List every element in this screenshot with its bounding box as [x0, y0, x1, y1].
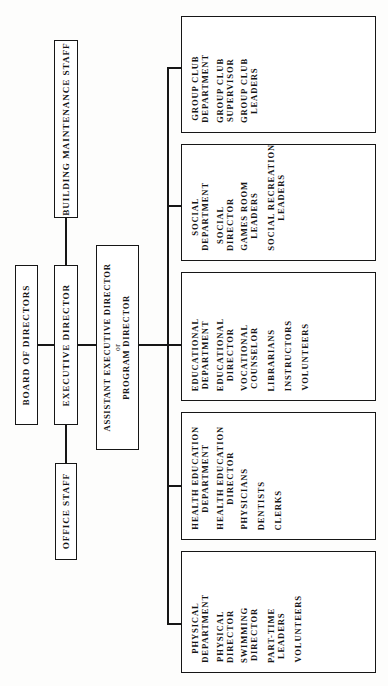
- org-chart-canvas: BOARD OF DIRECTORS EXECUTIVE DIRECTOR BU…: [0, 0, 388, 686]
- department-title: HEALTH EDUCATION DEPARTMENT: [191, 426, 211, 530]
- department-role: GAMES ROOM LEADERS: [240, 181, 260, 251]
- connector-executive-to-assistant: [77, 344, 96, 346]
- building-maintenance-staff-label: BUILDING MAINTENANCE STAFF: [61, 42, 71, 215]
- department-role: HEALTH EDUCATION DIRECTOR: [216, 426, 236, 530]
- department-role: PHYSICAL DIRECTOR: [216, 610, 236, 663]
- department-title: GROUP CLUB DEPARTMENT: [191, 54, 211, 123]
- connector-assistant-to-trunk: [139, 344, 169, 346]
- department-role: SWIMMING DIRECTOR: [240, 607, 260, 663]
- department-role: SOCIAL DIRECTOR: [216, 198, 236, 251]
- connector-department-trunk: [167, 67, 169, 625]
- building-label-wrap: BUILDING MAINTENANCE STAFF: [55, 41, 77, 217]
- department-role: DENTISTS: [257, 481, 267, 530]
- assistant-line-3: PROGRAM DIRECTOR: [121, 295, 131, 400]
- department-title: EDUCATIONAL DEPARTMENT: [191, 318, 211, 391]
- assistant-executive-director-label: ASSISTANT EXECUTIVE DIRECTOR or PROGRAM …: [103, 263, 132, 431]
- department-role: PART-TIME LEADERS: [267, 608, 287, 663]
- node-office-staff[interactable]: OFFICE STAFF: [55, 463, 77, 560]
- department-box-health-education[interactable]: HEALTH EDUCATION DEPARTMENTHEALTH EDUCAT…: [181, 412, 376, 540]
- department-role: LIBRARIANS: [267, 329, 277, 391]
- office-staff-label: OFFICE STAFF: [61, 473, 71, 549]
- assistant-line-1: ASSISTANT EXECUTIVE DIRECTOR: [102, 263, 112, 431]
- department-entries-health-education: HEALTH EDUCATION DEPARTMENTHEALTH EDUCAT…: [182, 413, 375, 539]
- assistant-label-wrap: ASSISTANT EXECUTIVE DIRECTOR or PROGRAM …: [97, 246, 138, 449]
- department-role: VOLUNTEERS: [301, 323, 311, 391]
- node-board-of-directors[interactable]: BOARD OF DIRECTORS: [15, 265, 38, 425]
- department-role: GROUP CLUB SUPERVISOR: [216, 58, 236, 123]
- executive-director-label: EXECUTIVE DIRECTOR: [61, 284, 71, 406]
- department-role: VOCATIONAL COUNSELOR: [240, 324, 260, 391]
- connector-executive-to-building: [65, 218, 67, 266]
- department-box-group-club[interactable]: GROUP CLUB DEPARTMENTGROUP CLUB SUPERVIS…: [181, 16, 376, 133]
- department-box-physical[interactable]: PHYSICAL DEPARTMENTPHYSICAL DIRECTORSWIM…: [181, 551, 376, 673]
- connector-trunk-to-educational: [167, 344, 182, 346]
- department-role: VOLUNTEERS: [294, 595, 304, 663]
- connector-board-to-executive: [37, 344, 55, 346]
- department-role: INSTRUCTORS: [284, 320, 294, 391]
- department-entries-physical: PHYSICAL DEPARTMENTPHYSICAL DIRECTORSWIM…: [182, 552, 375, 672]
- node-assistant-executive-director[interactable]: ASSISTANT EXECUTIVE DIRECTOR or PROGRAM …: [96, 245, 139, 450]
- department-role: PHYSICIANS: [240, 468, 250, 530]
- executive-label-wrap: EXECUTIVE DIRECTOR: [55, 266, 77, 424]
- department-title: PHYSICAL DEPARTMENT: [191, 594, 211, 663]
- node-building-maintenance-staff[interactable]: BUILDING MAINTENANCE STAFF: [54, 40, 78, 218]
- connector-executive-to-office: [65, 424, 67, 463]
- connector-trunk-to-physical: [167, 623, 182, 625]
- department-entries-social: SOCIAL DEPARTMENTSOCIAL DIRECTORGAMES RO…: [182, 145, 375, 260]
- board-label-wrap: BOARD OF DIRECTORS: [16, 266, 37, 424]
- office-label-wrap: OFFICE STAFF: [56, 464, 76, 559]
- connector-trunk-to-health-education: [167, 485, 182, 487]
- node-executive-director[interactable]: EXECUTIVE DIRECTOR: [54, 265, 78, 425]
- department-role: CLERKS: [274, 490, 284, 530]
- department-entries-educational: EDUCATIONAL DEPARTMENTEDUCATIONAL DIRECT…: [182, 273, 375, 400]
- connector-trunk-to-social: [167, 205, 182, 207]
- department-role: SOCIAL RECREATION LEADERS: [267, 144, 287, 251]
- department-role: GROUP CLUB LEADERS: [240, 58, 260, 123]
- department-box-social[interactable]: SOCIAL DEPARTMENTSOCIAL DIRECTORGAMES RO…: [181, 144, 376, 261]
- department-role: EDUCATIONAL DIRECTOR: [216, 318, 236, 391]
- board-of-directors-label: BOARD OF DIRECTORS: [21, 285, 31, 406]
- department-box-educational[interactable]: EDUCATIONAL DEPARTMENTEDUCATIONAL DIRECT…: [181, 272, 376, 401]
- department-entries-group-club: GROUP CLUB DEPARTMENTGROUP CLUB SUPERVIS…: [182, 17, 375, 132]
- department-title: SOCIAL DEPARTMENT: [191, 182, 211, 251]
- connector-trunk-to-group-club: [167, 67, 182, 69]
